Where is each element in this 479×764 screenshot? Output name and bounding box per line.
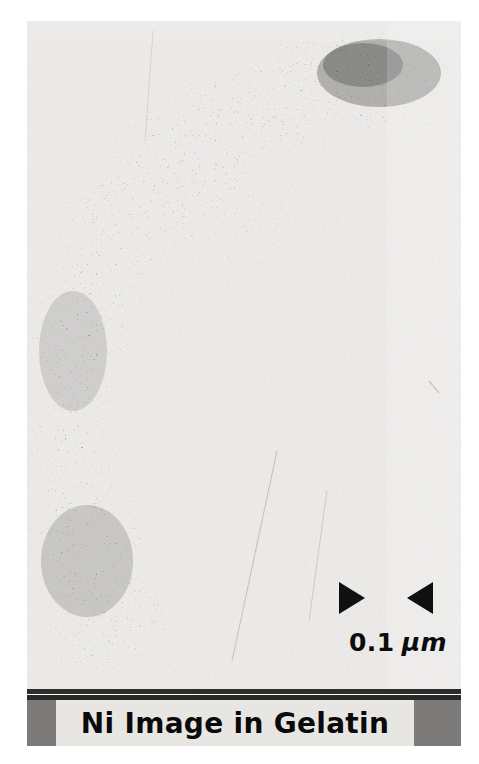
dense-core-left-arc [39, 291, 107, 411]
scale-bar: 0.1μm [323, 576, 461, 684]
caption-band: Ni Image in Gelatin [27, 695, 461, 746]
figure-page: 0.1μm Ni Image in Gelatin [0, 0, 479, 764]
scale-bar-unit: μm [395, 628, 447, 657]
scale-bar-value: 0.1 [349, 628, 395, 657]
caption-block-right [414, 700, 461, 746]
arrowhead-right-icon [339, 582, 365, 614]
arrowhead-left-icon [407, 582, 433, 614]
dense-core-lower-left [41, 505, 133, 617]
figure-caption: Ni Image in Gelatin [56, 700, 414, 746]
caption-block-left [27, 700, 56, 746]
micrograph-plate: 0.1μm [27, 21, 461, 694]
scale-bar-label: 0.1μm [323, 628, 461, 657]
plate-bottom-edge [27, 689, 461, 694]
